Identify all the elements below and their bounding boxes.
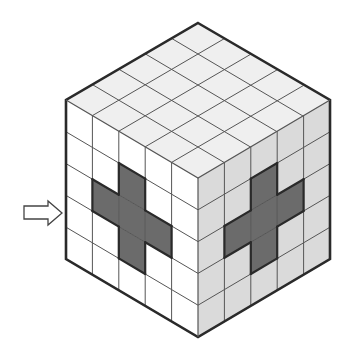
cube-diagram: 5x5x5 cube with cross pattern on two fac… (0, 0, 357, 356)
arrow-shape (24, 201, 62, 225)
right-arrow-icon (24, 201, 62, 225)
cube-svg (0, 0, 357, 356)
